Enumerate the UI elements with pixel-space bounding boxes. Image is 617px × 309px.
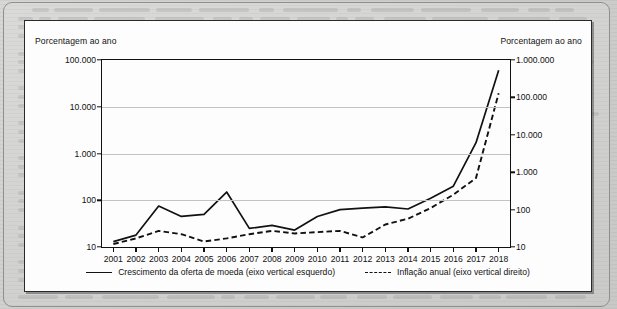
plot-area: 101001.00010.000100.000101001.00010.0001…: [101, 59, 511, 248]
gridline: [102, 154, 510, 155]
right-axis-caption: Porcentagem ao ano: [500, 36, 582, 46]
x-axis-tick-label: 2016: [444, 254, 463, 264]
x-axis-tick-label: 2005: [194, 254, 213, 264]
x-axis-tick: [249, 247, 250, 252]
x-axis-tick-label: 2013: [376, 254, 395, 264]
y-axis-tick-label-left: 10: [86, 242, 96, 252]
x-axis-tick-label: 2012: [353, 254, 372, 264]
legend-label-inflation: Inflação anual (eixo vertical direito): [397, 267, 530, 277]
y-axis-tick-left: [97, 200, 102, 201]
x-axis-tick: [135, 247, 136, 252]
x-axis-tick-label: 2006: [217, 254, 236, 264]
y-axis-tick-right: [510, 209, 515, 210]
x-axis-tick-label: 2007: [240, 254, 259, 264]
y-axis-tick-label-left: 100.000: [65, 55, 96, 65]
legend-item-inflation: Inflação anual (eixo vertical direito): [365, 267, 530, 277]
x-axis-tick: [453, 247, 454, 252]
legend-item-money-supply: Crescimento da oferta de moeda (eixo ver…: [86, 267, 335, 277]
solid-line-icon: [86, 272, 112, 273]
y-axis-tick-right: [510, 59, 515, 60]
chart-legend: Crescimento da oferta de moeda (eixo ver…: [25, 267, 591, 277]
y-axis-tick-left: [97, 153, 102, 154]
y-axis-tick-label-left: 10.000: [70, 102, 96, 112]
dashed-line-icon: [365, 272, 391, 273]
y-axis-tick-left: [97, 59, 102, 60]
x-axis-tick: [181, 247, 182, 252]
x-axis-tick-label: 2011: [331, 254, 349, 264]
y-axis-tick-label-right: 10: [516, 242, 526, 252]
series-line-inflation: [113, 93, 498, 244]
x-axis-tick-label: 2018: [489, 254, 508, 264]
x-axis-tick: [339, 247, 340, 252]
x-axis-tick: [158, 247, 159, 252]
x-axis-tick: [362, 247, 363, 252]
x-axis-tick-label: 2010: [308, 254, 327, 264]
x-axis-tick: [385, 247, 386, 252]
chart-figure-panel: Porcentagem ao ano Porcentagem ao ano 10…: [24, 20, 592, 292]
x-axis-tick-label: 2014: [398, 254, 417, 264]
gridline: [102, 200, 510, 201]
x-axis-tick-label: 2008: [262, 254, 281, 264]
scanned-page: Porcentagem ao ano Porcentagem ao ano 10…: [0, 0, 617, 309]
x-axis-tick: [294, 247, 295, 252]
y-axis-tick-label-right: 1.000: [516, 167, 538, 177]
x-axis-tick-label: 2009: [285, 254, 304, 264]
series-line-money-supply: [113, 70, 498, 241]
y-axis-tick-label-left: 1.000: [74, 149, 96, 159]
x-axis-tick-label: 2001: [104, 254, 123, 264]
y-axis-tick-label-right: 1.000.000: [516, 55, 554, 65]
y-axis-tick-right: [510, 134, 515, 135]
x-axis-tick-label: 2017: [466, 254, 485, 264]
left-axis-caption: Porcentagem ao ano: [35, 36, 117, 46]
x-axis-tick: [317, 247, 318, 252]
x-axis-tick: [113, 247, 114, 252]
x-axis-tick: [226, 247, 227, 252]
x-axis-tick: [475, 247, 476, 252]
x-axis-tick-label: 2015: [421, 254, 440, 264]
y-axis-tick-label-left: 100: [82, 195, 96, 205]
x-axis-tick: [203, 247, 204, 252]
x-axis-tick: [407, 247, 408, 252]
gridline: [102, 107, 510, 108]
y-axis-tick-left: [97, 106, 102, 107]
y-axis-tick-left: [97, 246, 102, 247]
legend-label-money-supply: Crescimento da oferta de moeda (eixo ver…: [118, 267, 335, 277]
y-axis-tick-label-right: 10.000: [516, 130, 542, 140]
y-axis-tick-label-right: 100: [516, 205, 530, 215]
y-axis-tick-right: [510, 97, 515, 98]
y-axis-tick-label-right: 100.000: [516, 92, 547, 102]
x-axis-tick-label: 2004: [172, 254, 191, 264]
y-axis-tick-right: [510, 171, 515, 172]
x-axis-tick-label: 2002: [126, 254, 145, 264]
x-axis-tick: [271, 247, 272, 252]
x-axis-tick: [430, 247, 431, 252]
y-axis-tick-right: [510, 246, 515, 247]
x-axis-tick: [498, 247, 499, 252]
x-axis-tick-label: 2003: [149, 254, 168, 264]
